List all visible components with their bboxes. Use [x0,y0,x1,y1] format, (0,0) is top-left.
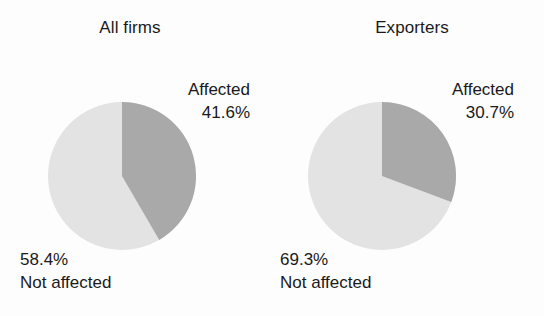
pie-chart-all-firms [48,102,196,250]
callout-affected-label-exporters: Affected [452,78,514,101]
panel-title-exporters: Exporters [276,18,544,38]
callout-not-affected-all-firms: 58.4% Not affected [20,248,111,294]
pie-svg-exporters [308,102,456,250]
callout-not-affected-value-all-firms: 58.4% [20,248,111,271]
panel-title-all-firms: All firms [0,18,266,38]
pie-chart-exporters [308,102,456,250]
chart-panel-all-firms: All firms Affected 41.6% 58.4% Not affec… [0,0,272,316]
pie-svg-all-firms [48,102,196,250]
callout-not-affected-exporters: 69.3% Not affected [280,248,371,294]
callout-not-affected-label-exporters: Not affected [280,271,371,294]
callout-affected-value-all-firms: 41.6% [188,101,250,124]
callout-not-affected-value-exporters: 69.3% [280,248,371,271]
pie-chart-figure: All firms Affected 41.6% 58.4% Not affec… [0,0,544,316]
callout-affected-exporters: Affected 30.7% [452,78,514,124]
chart-panel-exporters: Exporters Affected 30.7% 69.3% Not affec… [272,0,544,316]
callout-not-affected-label-all-firms: Not affected [20,271,111,294]
callout-affected-label-all-firms: Affected [188,78,250,101]
callout-affected-value-exporters: 30.7% [452,101,514,124]
callout-affected-all-firms: Affected 41.6% [188,78,250,124]
